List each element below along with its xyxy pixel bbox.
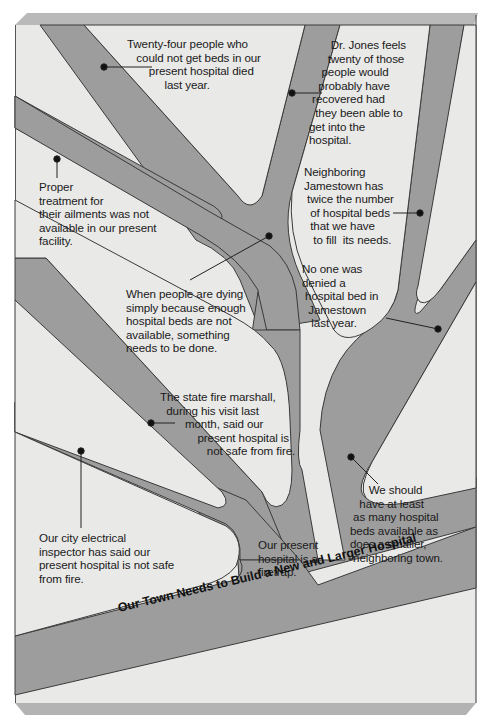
- board-top-bevel: [15, 13, 478, 25]
- label-electrical-inspector: Our city electrical inspector has said o…: [39, 531, 174, 585]
- label-twenty-four-died: Twenty-four people who could not get bed…: [127, 37, 261, 91]
- dot-twenty-four: [101, 64, 107, 70]
- dot-people-dying: [266, 233, 272, 239]
- tree-graphic: [0, 0, 486, 725]
- dot-electrical-inspector: [78, 448, 84, 454]
- dot-no-one-denied: [435, 326, 441, 332]
- label-no-one-denied: No one was denied a hospital bed in Jame…: [302, 262, 378, 330]
- dot-proper-treatment: [54, 156, 60, 162]
- argument-tree-diagram: Twenty-four people who could not get bed…: [0, 0, 486, 725]
- dot-jamestown-twice: [417, 210, 423, 216]
- label-jamestown-twice: Neighboring Jamestown has twice the numb…: [304, 165, 394, 247]
- dot-fire-marshall: [148, 420, 154, 426]
- label-fire-marshall: The state fire marshall, during his visi…: [160, 390, 295, 458]
- label-proper-treatment: Proper treatment for their ailments was …: [39, 180, 156, 248]
- label-dr-jones: Dr. Jones feels twenty of those people w…: [309, 38, 406, 147]
- label-people-dying: When people are dying simply because eno…: [126, 287, 246, 355]
- board-bottom-bevel: [15, 703, 476, 715]
- dot-dr-jones: [289, 90, 295, 96]
- dot-as-many-beds: [348, 454, 354, 460]
